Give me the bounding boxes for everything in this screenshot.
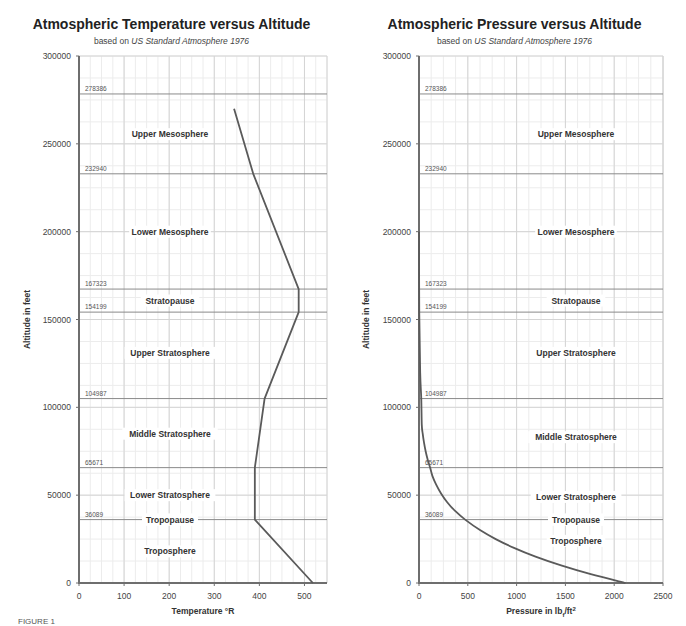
- y-tick-label: 150000: [43, 315, 72, 325]
- layer-boundary-label: 36089: [425, 511, 443, 518]
- y-axis-title: Altitude in feet: [361, 290, 371, 349]
- x-tick-label: 500: [297, 591, 311, 601]
- layer-boundary-label: 65671: [85, 459, 103, 466]
- region-label: Tropopause: [552, 515, 600, 525]
- y-tick-label: 100000: [383, 402, 412, 412]
- layer-boundary-label: 232940: [425, 165, 447, 172]
- region-label: Middle Stratosphere: [535, 432, 617, 442]
- x-tick-label: 1500: [556, 591, 575, 601]
- y-tick-label: 200000: [383, 227, 412, 237]
- x-tick-label: 0: [77, 591, 82, 601]
- x-axis-title: Pressure in lbf/ft2: [506, 606, 576, 618]
- y-tick-label: 300000: [43, 51, 72, 61]
- layer-boundary-label: 36089: [85, 511, 103, 518]
- region-label: Troposphere: [550, 536, 602, 546]
- y-tick-label: 150000: [383, 315, 412, 325]
- y-tick-label: 50000: [47, 490, 71, 500]
- y-tick-label: 200000: [43, 227, 72, 237]
- y-tick-label: 0: [406, 578, 411, 588]
- x-axis-title: Temperature °R: [172, 606, 235, 616]
- x-tick-label: 200: [162, 591, 176, 601]
- layer-boundary-label: 167323: [425, 280, 447, 287]
- layer-boundary-label: 278386: [85, 85, 107, 92]
- region-label: Upper Mesosphere: [538, 129, 615, 139]
- y-axis-title: Altitude in feet: [22, 290, 32, 349]
- x-tick-label: 2000: [605, 591, 624, 601]
- x-tick-label: 2500: [654, 591, 673, 601]
- region-label: Upper Stratosphere: [536, 348, 616, 358]
- region-label: Upper Mesosphere: [132, 129, 209, 139]
- region-label: Tropopause: [146, 515, 194, 525]
- pressure-chart: Atmospheric Pressure versus Altitude bas…: [343, 0, 686, 626]
- y-tick-label: 100000: [43, 402, 72, 412]
- x-tick-label: 0: [417, 591, 422, 601]
- pressure-plot: Upper MesosphereLower MesosphereStratopa…: [343, 0, 686, 626]
- data-series-line: [234, 109, 313, 583]
- y-tick-label: 250000: [43, 139, 72, 149]
- region-label: Upper Stratosphere: [130, 348, 210, 358]
- y-tick-label: 300000: [383, 51, 412, 61]
- region-label: Troposphere: [144, 546, 196, 556]
- layer-boundary-label: 154199: [85, 303, 107, 310]
- region-label: Middle Stratosphere: [129, 429, 211, 439]
- layer-boundary-label: 104987: [85, 390, 107, 397]
- layer-boundary-label: 278386: [425, 85, 447, 92]
- layer-boundary-label: 167323: [85, 280, 107, 287]
- x-tick-label: 300: [207, 591, 221, 601]
- x-tick-label: 1000: [507, 591, 526, 601]
- y-tick-label: 50000: [387, 490, 411, 500]
- figure-caption: FIGURE 1: [18, 617, 55, 626]
- region-label: Stratopause: [551, 296, 600, 306]
- x-tick-label: 400: [252, 591, 266, 601]
- x-tick-label: 500: [461, 591, 475, 601]
- region-label: Lower Stratosphere: [130, 490, 210, 500]
- temperature-plot: Upper MesosphereLower MesosphereStratopa…: [0, 0, 343, 626]
- layer-boundary-label: 154199: [425, 303, 447, 310]
- layer-boundary-label: 104987: [425, 390, 447, 397]
- region-label: Lower Stratosphere: [536, 492, 616, 502]
- y-tick-label: 0: [66, 578, 71, 588]
- temperature-chart: Atmospheric Temperature versus Altitude …: [0, 0, 343, 626]
- layer-boundary-label: 232940: [85, 165, 107, 172]
- x-tick-label: 100: [117, 591, 131, 601]
- region-label: Stratopause: [145, 296, 194, 306]
- region-label: Lower Mesosphere: [132, 227, 209, 237]
- region-label: Lower Mesosphere: [538, 227, 615, 237]
- y-tick-label: 250000: [383, 139, 412, 149]
